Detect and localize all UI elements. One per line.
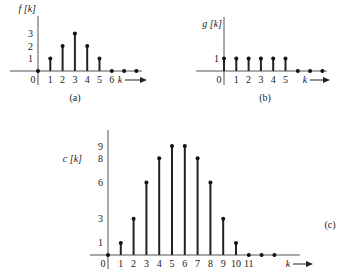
plot-g-k: g [k]1012345k(b) xyxy=(196,17,330,104)
x-tick-label: 4 xyxy=(271,74,276,85)
figure-caption: (b) xyxy=(259,92,271,104)
stem-marker xyxy=(284,57,288,61)
stem-marker xyxy=(234,57,238,61)
stem-marker xyxy=(36,69,40,73)
x-tick-label: 0 xyxy=(101,258,106,269)
stem-marker xyxy=(208,180,212,184)
x-tick-label: 3 xyxy=(258,74,263,85)
signal-stem-plots: f [k]1230123456k(a) g [k]1012345k(b) c [… xyxy=(0,0,341,274)
stem-marker xyxy=(144,180,148,184)
y-tick-label: 1 xyxy=(98,237,103,248)
x-tick-label: 4 xyxy=(85,74,90,85)
y-axis-label: f [k] xyxy=(19,3,37,14)
x-tick-label: 2 xyxy=(246,74,251,85)
y-tick-label: 8 xyxy=(98,153,103,164)
stem-marker xyxy=(134,69,138,73)
stem-marker xyxy=(106,253,110,257)
y-tick-label: 1 xyxy=(28,53,33,64)
x-tick-label: 3 xyxy=(144,258,149,269)
y-tick-label: 2 xyxy=(28,41,33,52)
y-tick-label: 3 xyxy=(28,28,33,39)
x-tick-label: 1 xyxy=(48,74,53,85)
stem-marker xyxy=(132,217,136,221)
stem-marker xyxy=(247,57,251,61)
stem-marker xyxy=(110,69,114,73)
stem-marker xyxy=(234,241,238,245)
x-tick-label: 5 xyxy=(97,74,102,85)
stem-marker xyxy=(308,69,312,73)
x-tick-label: 9 xyxy=(221,258,226,269)
x-tick-label: 5 xyxy=(283,74,288,85)
stem-marker xyxy=(119,241,123,245)
x-tick-label: 7 xyxy=(195,258,200,269)
x-tick-label: 6 xyxy=(109,74,114,85)
y-tick-label: 1 xyxy=(214,53,219,64)
arrow-head-icon xyxy=(140,77,147,83)
stem-marker xyxy=(271,57,275,61)
x-tick-label: 0 xyxy=(217,74,222,85)
y-tick-label: 3 xyxy=(98,213,103,224)
x-tick-label: 1 xyxy=(118,258,123,269)
x-tick-label: 10 xyxy=(231,258,241,269)
stem-marker xyxy=(222,57,226,61)
x-axis-label: k xyxy=(118,74,123,85)
stem-marker xyxy=(73,32,77,36)
stem-marker xyxy=(98,57,102,61)
stem-marker xyxy=(61,44,65,48)
x-tick-label: 2 xyxy=(60,74,65,85)
figure-caption: (a) xyxy=(69,92,80,104)
x-tick-label: 0 xyxy=(31,74,36,85)
stem-marker xyxy=(247,253,251,257)
stem-marker xyxy=(272,253,276,257)
stem-marker xyxy=(196,156,200,160)
x-tick-label: 3 xyxy=(72,74,77,85)
stem-marker xyxy=(296,69,300,73)
figure-caption: (c) xyxy=(324,219,335,231)
x-tick-label: 6 xyxy=(182,258,187,269)
arrow-head-icon xyxy=(306,261,313,267)
x-tick-label: 4 xyxy=(157,258,162,269)
y-axis-label: g [k] xyxy=(202,18,222,29)
x-tick-label: 5 xyxy=(170,258,175,269)
y-axis-label: c [k] xyxy=(63,153,82,164)
stem-marker xyxy=(221,217,225,221)
stem-marker xyxy=(170,144,174,148)
stem-marker xyxy=(122,69,126,73)
plot-c-k: c [k]1368901234567891011k(c) xyxy=(63,130,336,269)
x-tick-label: 2 xyxy=(131,258,136,269)
y-tick-label: 6 xyxy=(98,177,103,188)
x-tick-label: 8 xyxy=(208,258,213,269)
stem-marker xyxy=(85,44,89,48)
y-tick-label: 9 xyxy=(98,141,103,152)
plot-f-k: f [k]1230123456k(a) xyxy=(10,3,147,104)
stem-marker xyxy=(157,156,161,160)
stem-marker xyxy=(320,69,324,73)
x-tick-label: 11 xyxy=(244,258,254,269)
x-axis-label: k xyxy=(303,74,308,85)
stem-marker xyxy=(183,144,187,148)
x-axis-label: k xyxy=(286,258,291,269)
stem-marker xyxy=(259,57,263,61)
x-tick-label: 1 xyxy=(234,74,239,85)
arrow-head-icon xyxy=(323,77,330,83)
stem-marker xyxy=(260,253,264,257)
stem-marker xyxy=(48,57,52,61)
